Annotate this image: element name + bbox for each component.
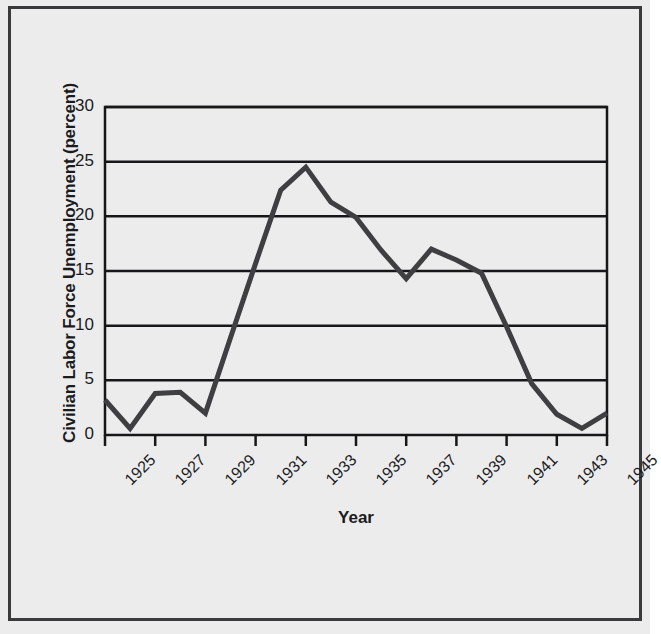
y-tick-label: 25 [48,151,94,171]
y-tick-label: 15 [48,260,94,280]
y-tick-label: 10 [48,315,94,335]
y-tick-label: 30 [48,96,94,116]
y-tick-label: 5 [48,369,94,389]
x-axis-label: Year [105,508,607,528]
gridlines-group [105,107,607,380]
y-tick-label: 0 [48,424,94,444]
y-tick-label: 20 [48,205,94,225]
x-tick-marks-group [105,435,607,446]
data-series-line [105,167,607,428]
